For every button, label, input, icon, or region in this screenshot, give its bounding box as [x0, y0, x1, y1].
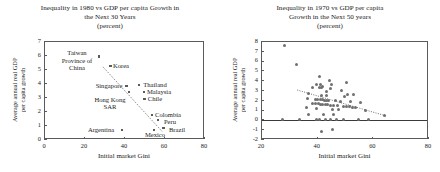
left-chart-title: Inequality in 1980 vs GDP per capita Gro…: [6, 4, 214, 31]
left-chart-panel: Inequality in 1980 vs GDP per capita Gro…: [0, 0, 220, 172]
y-tick-label: 2: [247, 97, 258, 103]
y-tick-label: 0: [247, 116, 258, 122]
data-point: [128, 91, 131, 94]
point-label: Mexico: [129, 131, 181, 138]
left-chart-x-axis-label: Initial market Gini: [44, 152, 204, 160]
y-tick-mark: [261, 110, 264, 111]
data-point: [335, 118, 338, 121]
x-tick-label: 40: [114, 143, 134, 149]
y-tick-mark: [44, 41, 47, 42]
x-tick-label: 20: [74, 143, 94, 149]
y-tick-label: 2: [30, 108, 41, 114]
point-label: Chile: [129, 95, 181, 102]
right-plot-area: [261, 41, 428, 139]
data-point: [295, 63, 298, 66]
data-point: [346, 93, 349, 96]
point-label: Korea: [95, 62, 147, 69]
x-tick-mark: [84, 137, 85, 140]
y-tick-mark: [261, 90, 264, 91]
right-chart-title-line-3: (percent): [226, 22, 434, 31]
y-tick-mark: [44, 125, 47, 126]
point-label: Argentina: [75, 126, 127, 133]
two-panel-scatter-figure: Inequality in 1980 vs GDP per capita Gro…: [0, 0, 440, 172]
y-tick-mark: [261, 119, 264, 120]
y-tick-mark: [261, 80, 264, 81]
right-y-axis-label-line-2: per capita growth: [239, 68, 246, 112]
left-chart-y-axis-label: Average annual real GDP per capita growt…: [11, 40, 27, 140]
data-point: [349, 100, 352, 103]
x-tick-mark: [204, 137, 205, 140]
x-tick-label: 80: [194, 143, 214, 149]
data-point: [320, 130, 323, 133]
right-chart-title-line-2: Growth in the Next 50 years: [226, 13, 434, 22]
data-point: [357, 118, 360, 121]
data-point: [329, 87, 332, 90]
y-tick-mark: [44, 97, 47, 98]
y-tick-mark: [261, 41, 264, 42]
data-point: [315, 83, 318, 86]
y-tick-label: 1: [247, 106, 258, 112]
x-tick-mark: [261, 137, 262, 140]
right-chart-title: Inequality in 1970 vs GDP per capita Gro…: [226, 4, 434, 31]
data-point: [345, 81, 348, 84]
y-tick-mark: [261, 129, 264, 130]
data-point: [339, 100, 342, 103]
y-tick-label: 6: [247, 57, 258, 63]
data-point: [331, 108, 334, 111]
y-tick-mark: [44, 55, 47, 56]
x-tick-mark: [317, 137, 318, 140]
data-point: [367, 118, 370, 121]
x-tick-label: 40: [307, 143, 327, 149]
data-point: [329, 118, 332, 121]
y-tick-label: 4: [30, 80, 41, 86]
y-tick-mark: [261, 100, 264, 101]
x-tick-label: 0: [34, 143, 54, 149]
y-tick-label: 1: [30, 122, 41, 128]
y-tick-mark: [261, 61, 264, 62]
y-tick-label: 3: [247, 87, 258, 93]
x-tick-mark: [428, 137, 429, 140]
x-tick-label: 80: [418, 143, 438, 149]
x-tick-label: 20: [251, 143, 271, 149]
y-tick-mark: [261, 70, 264, 71]
y-tick-label: 8: [247, 38, 258, 44]
left-chart-title-line-1: Inequality in 1980 vs GDP per capita Gro…: [6, 4, 214, 13]
x-tick-mark: [44, 137, 45, 140]
right-chart-panel: Inequality in 1970 vs GDP per capita Gro…: [220, 0, 440, 172]
y-tick-mark: [44, 69, 47, 70]
left-y-axis-label-line-2: per capita growth: [19, 68, 26, 112]
right-y-axis-label-line-1: Average annual real GDP: [231, 58, 238, 122]
x-tick-mark: [372, 137, 373, 140]
y-tick-label: 4: [247, 77, 258, 83]
point-label: Singapore: [83, 82, 135, 89]
point-label: Colombia: [142, 111, 194, 118]
y-tick-label: 3: [30, 94, 41, 100]
left-y-axis-label-line-1: Average annual real GDP: [11, 58, 18, 122]
data-point: [340, 89, 343, 92]
right-chart-x-axis-label: Initial market Gini: [261, 152, 428, 160]
y-tick-label: 6: [30, 52, 41, 58]
data-point: [324, 118, 327, 121]
x-tick-mark: [124, 137, 125, 140]
right-chart-y-axis-label: Average annual real GDP per capita growt…: [231, 40, 247, 140]
y-tick-mark: [261, 139, 264, 140]
y-tick-label: 7: [247, 48, 258, 54]
y-tick-mark: [261, 51, 264, 52]
y-tick-label: 5: [30, 66, 41, 72]
point-label: Hong Kong SAR: [84, 96, 136, 111]
y-tick-label: -2: [247, 136, 258, 142]
data-point: [318, 118, 321, 121]
data-point: [307, 113, 310, 116]
x-tick-label: 60: [154, 143, 174, 149]
y-tick-label: 7: [30, 38, 41, 44]
y-tick-label: -1: [247, 126, 258, 132]
data-point: [364, 109, 367, 112]
y-tick-mark: [44, 83, 47, 84]
y-tick-mark: [44, 111, 47, 112]
point-label: Peru: [144, 118, 196, 125]
y-tick-mark: [44, 139, 47, 140]
data-point: [311, 86, 314, 89]
y-tick-label: 0: [30, 136, 41, 142]
y-tick-label: 5: [247, 67, 258, 73]
data-point: [320, 86, 323, 89]
